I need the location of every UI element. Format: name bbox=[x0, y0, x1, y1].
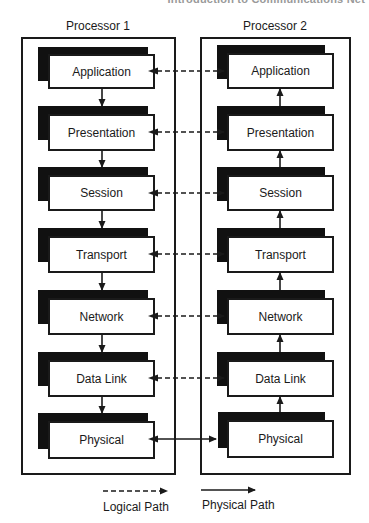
legend-physical-label: Physical Path bbox=[202, 498, 275, 512]
logical-paths bbox=[157, 71, 224, 378]
legend-logical-label: Logical Path bbox=[103, 500, 169, 514]
arrows-overlay bbox=[0, 0, 369, 523]
